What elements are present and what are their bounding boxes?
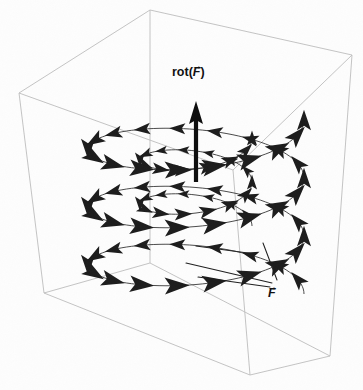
rot-F-label: rot(→F) <box>172 66 205 79</box>
vector-field-illustration <box>0 0 363 390</box>
rot-F-prefix: rot( <box>172 65 193 79</box>
figure-canvas: rot(→F) →F <box>0 0 363 390</box>
rot-F-symbol: →F <box>193 66 201 79</box>
F-label: →F <box>268 287 276 300</box>
vector-arrow-icon: → <box>192 61 202 71</box>
rot-F-shaft <box>194 118 198 182</box>
F-symbol: →F <box>268 287 276 300</box>
vector-arrow-icon: → <box>267 282 277 292</box>
